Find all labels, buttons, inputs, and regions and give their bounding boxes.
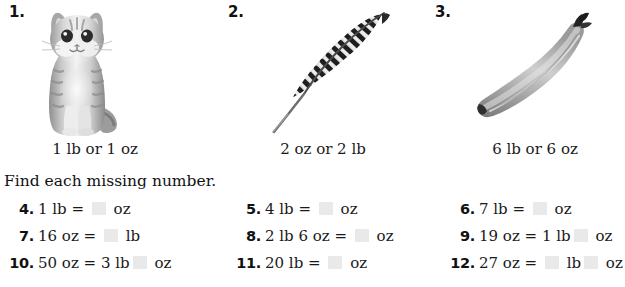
exercise-suffix: oz bbox=[345, 254, 367, 272]
exercise-item-11[interactable]: 11.20 lb = oz bbox=[215, 252, 415, 279]
exercise-prefix: 50 oz = 3 lb bbox=[34, 254, 130, 272]
exercise-item-4[interactable]: 4.1 lb = oz bbox=[0, 198, 215, 225]
answer-blank[interactable] bbox=[104, 229, 118, 242]
exercise-mid: lb bbox=[562, 254, 581, 272]
exercise-item-12[interactable]: 12.27 oz = lb oz bbox=[415, 252, 625, 279]
exercise-prefix: 20 lb = bbox=[261, 254, 325, 272]
picture-number-3: 3. bbox=[435, 3, 451, 21]
exercise-suffix: oz bbox=[109, 200, 131, 218]
exercise-number: 9. bbox=[415, 225, 475, 247]
exercise-prefix: 16 oz = bbox=[34, 227, 101, 245]
exercise-item-9[interactable]: 9.19 oz = 1 lb oz bbox=[415, 225, 625, 252]
exercise-item-8[interactable]: 8.2 lb 6 oz = oz bbox=[215, 225, 415, 252]
exercise-item-10[interactable]: 10.50 oz = 3 lb oz bbox=[0, 252, 215, 279]
answer-blank[interactable] bbox=[584, 256, 598, 269]
exercise-suffix: oz bbox=[150, 254, 172, 272]
answer-blank[interactable] bbox=[133, 256, 147, 269]
exercise-prefix: 19 oz = 1 lb bbox=[475, 227, 571, 245]
answer-blank[interactable] bbox=[328, 256, 342, 269]
feather-photo bbox=[258, 8, 398, 136]
picture-caption-2: 2 oz or 2 lb bbox=[210, 140, 418, 158]
exercise-number: 6. bbox=[415, 198, 475, 220]
exercise-row: 7.16 oz = lb 8.2 lb 6 oz = oz 9.19 oz = … bbox=[0, 225, 625, 252]
picture-cell-3: 3. bbox=[420, 0, 625, 168]
answer-blank[interactable] bbox=[319, 202, 333, 215]
picture-caption-1: 1 lb or 1 oz bbox=[0, 140, 208, 158]
exercise-suffix: oz bbox=[372, 227, 394, 245]
exercise-list: 4.1 lb = oz 5.4 lb = oz 6.7 lb = oz 7.16… bbox=[0, 198, 625, 279]
exercise-item-7[interactable]: 7.16 oz = lb bbox=[0, 225, 215, 252]
picture-row: 1. bbox=[0, 0, 625, 168]
exercise-suffix: oz bbox=[601, 254, 623, 272]
exercise-prefix: 7 lb = bbox=[475, 200, 530, 218]
picture-number-1: 1. bbox=[9, 3, 25, 21]
exercise-row: 10.50 oz = 3 lb oz 11.20 lb = oz 12.27 o… bbox=[0, 252, 625, 279]
exercise-number: 4. bbox=[0, 198, 34, 220]
exercise-number: 12. bbox=[415, 252, 475, 274]
answer-blank[interactable] bbox=[355, 229, 369, 242]
exercise-number: 7. bbox=[0, 225, 34, 247]
exercise-suffix: oz bbox=[336, 200, 358, 218]
answer-blank[interactable] bbox=[533, 202, 547, 215]
answer-blank[interactable] bbox=[574, 229, 588, 242]
exercise-number: 5. bbox=[215, 198, 261, 220]
exercise-number: 11. bbox=[215, 252, 261, 274]
exercise-item-5[interactable]: 5.4 lb = oz bbox=[215, 198, 415, 225]
banana-photo bbox=[460, 8, 605, 136]
picture-cell-1: 1. bbox=[0, 0, 208, 168]
exercise-prefix: 27 oz = bbox=[475, 254, 542, 272]
exercise-prefix: 1 lb = bbox=[34, 200, 89, 218]
exercise-item-6[interactable]: 6.7 lb = oz bbox=[415, 198, 625, 225]
exercise-prefix: 4 lb = bbox=[261, 200, 316, 218]
exercise-number: 8. bbox=[215, 225, 261, 247]
answer-blank[interactable] bbox=[92, 202, 106, 215]
picture-cell-2: 2. bbox=[210, 0, 418, 168]
kitten-photo bbox=[30, 8, 125, 136]
picture-number-2: 2. bbox=[228, 3, 244, 21]
answer-blank[interactable] bbox=[545, 256, 559, 269]
exercise-suffix: oz bbox=[591, 227, 613, 245]
exercise-suffix: oz bbox=[550, 200, 572, 218]
instruction-text: Find each missing number. bbox=[4, 172, 216, 191]
exercise-prefix: 2 lb 6 oz = bbox=[261, 227, 352, 245]
exercise-row: 4.1 lb = oz 5.4 lb = oz 6.7 lb = oz bbox=[0, 198, 625, 225]
exercise-suffix: lb bbox=[121, 227, 140, 245]
exercise-number: 10. bbox=[0, 252, 34, 274]
picture-caption-3: 6 lb or 6 oz bbox=[420, 140, 625, 158]
